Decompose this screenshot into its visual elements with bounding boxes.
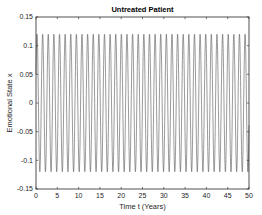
x-tick-label: 0 — [34, 192, 38, 199]
y-tick-label: 0 — [29, 99, 33, 106]
x-tick-label: 30 — [160, 192, 168, 199]
x-axis-label: Time t (Years) — [119, 202, 166, 211]
y-tick-label: -0.05 — [17, 128, 33, 135]
x-tick-label: 5 — [55, 192, 59, 199]
y-tick-label: 0.1 — [23, 42, 33, 49]
chart-title: Untreated Patient — [111, 5, 174, 14]
x-tick-label: 20 — [117, 192, 125, 199]
x-tick-label: 35 — [181, 192, 189, 199]
y-axis-label: Emotional State x — [5, 73, 14, 132]
x-tick-label: 15 — [96, 192, 104, 199]
x-tick-label: 25 — [139, 192, 147, 199]
plot-area — [36, 17, 249, 189]
y-tick-label: 0.05 — [19, 71, 33, 78]
y-tick-label: -0.1 — [21, 157, 33, 164]
chart: Untreated Patient 05101520253035404550 -… — [0, 0, 262, 215]
y-tick-label: -0.15 — [17, 185, 33, 192]
x-tick-label: 10 — [75, 192, 83, 199]
x-tick-label: 40 — [203, 192, 211, 199]
y-tick-label: 0.15 — [19, 13, 33, 20]
x-tick-label: 45 — [224, 192, 232, 199]
x-tick-label: 50 — [245, 192, 253, 199]
